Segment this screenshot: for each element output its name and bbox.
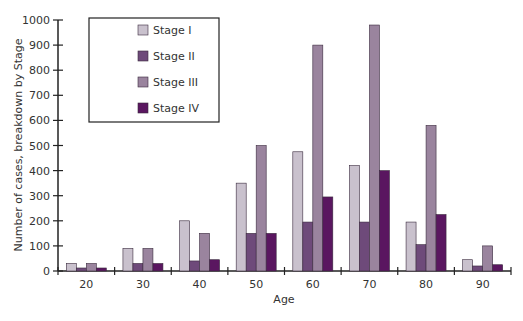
bar-stage-iii-age-50 [256, 146, 266, 272]
y-tick-label: 400 [29, 165, 50, 178]
legend: Stage IStage IIStage IIIStage IV [89, 18, 219, 122]
x-tick-label: 60 [306, 278, 320, 291]
bar-stage-i-age-60 [293, 152, 303, 271]
bar-stage-iv-age-80 [436, 215, 446, 271]
y-tick-label: 200 [29, 215, 50, 228]
legend-label: Stage IV [153, 102, 200, 115]
x-tick-label: 70 [362, 278, 376, 291]
x-tick-label: 20 [79, 278, 93, 291]
y-axis-title: Number of cases, breakdown by Stage [12, 38, 25, 251]
bar-stage-iii-age-70 [369, 25, 379, 271]
y-tick-label: 100 [29, 240, 50, 253]
y-tick-label: 600 [29, 114, 50, 127]
y-axis: 01002003004005006007008009001000 [22, 14, 63, 278]
legend-label: Stage II [153, 50, 195, 63]
bar-stage-i-age-40 [180, 221, 190, 271]
x-tick-label: 50 [249, 278, 263, 291]
bar-stage-i-age-30 [123, 248, 133, 271]
bar-stage-iii-age-90 [483, 246, 493, 271]
legend-swatch [138, 103, 148, 113]
y-tick-label: 800 [29, 64, 50, 77]
legend-swatch [138, 51, 148, 61]
x-tick-label: 80 [419, 278, 433, 291]
bar-stage-ii-age-20 [76, 268, 86, 271]
bar-stage-ii-age-40 [190, 261, 200, 271]
bar-stage-iii-age-80 [426, 125, 436, 271]
y-tick-label: 1000 [22, 14, 50, 27]
bar-stage-iv-age-90 [493, 265, 503, 271]
legend-label: Stage I [153, 24, 192, 37]
y-tick-label: 0 [43, 265, 50, 278]
y-tick-label: 300 [29, 190, 50, 203]
bar-stage-ii-age-30 [133, 263, 143, 271]
bar-stage-i-age-80 [406, 222, 416, 271]
x-tick-label: 40 [193, 278, 207, 291]
bar-stage-ii-age-90 [473, 266, 483, 271]
bar-stage-i-age-20 [66, 263, 76, 271]
legend-label: Stage III [153, 76, 198, 89]
bar-stage-ii-age-60 [303, 222, 313, 271]
y-tick-label: 500 [29, 140, 50, 153]
x-tick-label: 30 [136, 278, 150, 291]
bar-stage-iii-age-20 [86, 263, 96, 271]
bar-stage-iv-age-60 [323, 197, 333, 271]
legend-swatch [138, 25, 148, 35]
bar-stage-iii-age-30 [143, 248, 153, 271]
y-tick-label: 900 [29, 39, 50, 52]
bar-stage-iv-age-70 [379, 171, 389, 271]
bar-stage-ii-age-50 [246, 233, 256, 271]
legend-swatch [138, 77, 148, 87]
x-axis-title: Age [273, 293, 295, 306]
bar-stage-i-age-50 [236, 183, 246, 271]
bar-stage-iv-age-30 [153, 263, 163, 271]
y-tick-label: 700 [29, 89, 50, 102]
bar-stage-iv-age-50 [266, 233, 276, 271]
x-tick-label: 90 [476, 278, 490, 291]
bar-stage-iv-age-20 [96, 268, 106, 271]
bar-stage-i-age-90 [463, 260, 473, 271]
bar-stage-iii-age-40 [200, 233, 210, 271]
bar-stage-ii-age-80 [416, 245, 426, 271]
bar-stage-iii-age-60 [313, 45, 323, 271]
bar-stage-i-age-70 [349, 166, 359, 271]
bar-chart: 01002003004005006007008009001000 2030405… [0, 0, 523, 321]
bar-stage-iv-age-40 [210, 260, 220, 271]
bar-stage-ii-age-70 [359, 222, 369, 271]
